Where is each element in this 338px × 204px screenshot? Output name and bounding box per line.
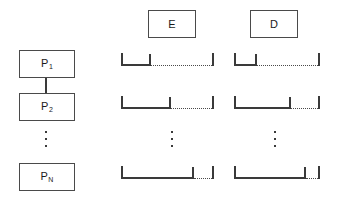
interval-dotted-segment <box>257 65 320 66</box>
interval-bracket-d-p2[interactable] <box>234 96 320 112</box>
interval-dotted-segment <box>194 178 214 179</box>
process-label-subscript-pn: N <box>48 176 53 183</box>
column-header-label-e: E <box>168 19 176 30</box>
interval-end-tick <box>212 166 214 179</box>
interval-end-tick <box>318 53 320 66</box>
interval-end-tick <box>212 96 214 109</box>
interval-solid-segment <box>234 177 306 179</box>
interval-dotted-segment <box>151 65 214 66</box>
interval-end-tick <box>318 166 320 179</box>
interval-mid-tick <box>289 97 291 108</box>
interval-bracket-d-pn[interactable] <box>234 166 320 182</box>
process-label-subscript-p2: 2 <box>49 106 53 113</box>
interval-end-tick <box>318 96 320 109</box>
interval-dotted-segment <box>291 108 320 109</box>
interval-solid-segment <box>121 107 171 109</box>
vertical-ellipsis-icon-processes <box>45 131 47 147</box>
process-label-pn: PN <box>40 171 53 183</box>
diagram-canvas: E D P1 P2 PN <box>0 0 338 204</box>
vertical-ellipsis-icon-column-e <box>171 131 173 147</box>
process-connector-line <box>45 78 47 93</box>
process-box-pn[interactable]: PN <box>19 163 75 191</box>
interval-mid-tick <box>304 167 306 178</box>
interval-mid-tick <box>192 167 194 178</box>
process-label-base-p2: P <box>41 100 49 112</box>
interval-solid-segment <box>234 107 291 109</box>
interval-solid-segment <box>121 64 151 66</box>
process-box-p2[interactable]: P2 <box>19 93 75 121</box>
process-label-base-p1: P <box>41 57 49 69</box>
interval-mid-tick <box>255 54 257 65</box>
vertical-ellipsis-icon-column-d <box>274 131 276 147</box>
process-label-base-pn: P <box>40 170 48 182</box>
column-header-box-e[interactable]: E <box>148 10 196 38</box>
interval-bracket-e-p2[interactable] <box>121 96 214 112</box>
column-header-box-d[interactable]: D <box>250 10 298 38</box>
interval-mid-tick <box>169 97 171 108</box>
interval-bracket-d-p1[interactable] <box>234 53 320 69</box>
interval-solid-segment <box>234 64 257 66</box>
interval-bracket-e-pn[interactable] <box>121 166 214 182</box>
interval-end-tick <box>212 53 214 66</box>
process-label-p1: P1 <box>41 58 53 70</box>
column-header-label-d: D <box>270 19 278 30</box>
process-label-p2: P2 <box>41 101 53 113</box>
interval-dotted-segment <box>171 108 214 109</box>
interval-bracket-e-p1[interactable] <box>121 53 214 69</box>
process-label-subscript-p1: 1 <box>49 63 53 70</box>
interval-solid-segment <box>121 177 194 179</box>
interval-mid-tick <box>149 54 151 65</box>
process-box-p1[interactable]: P1 <box>19 50 75 78</box>
